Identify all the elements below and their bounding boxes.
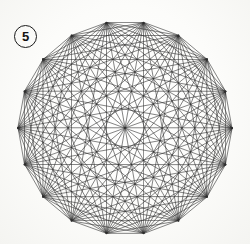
- figure-container: 5: [0, 0, 250, 244]
- graph-vertex: [106, 22, 108, 24]
- graph-vertex: [206, 196, 208, 198]
- graph-vertex: [143, 232, 145, 234]
- figure-number-badge: 5: [14, 25, 37, 48]
- graph-vertex: [42, 58, 44, 60]
- graph-vertex: [225, 164, 227, 166]
- graph-vertex: [42, 196, 44, 198]
- figure-number-text: 5: [22, 30, 29, 43]
- graph-vertex: [178, 220, 180, 222]
- graph-edges: [18, 22, 232, 233]
- graph-edge: [25, 164, 44, 196]
- graph-vertex: [17, 127, 19, 129]
- graph-edge: [25, 91, 144, 233]
- graph-vertex: [24, 91, 26, 93]
- graph-vertex: [178, 34, 180, 36]
- graph-vertex: [225, 91, 227, 93]
- graph-vertex: [206, 58, 208, 60]
- graph-vertex: [71, 34, 73, 36]
- graph-vertex: [143, 22, 145, 24]
- graph-vertex: [231, 127, 233, 129]
- graph-vertex: [24, 164, 26, 166]
- complete-graph-diagram: [0, 0, 250, 244]
- graph-vertex: [71, 220, 73, 222]
- graph-vertex: [106, 232, 108, 234]
